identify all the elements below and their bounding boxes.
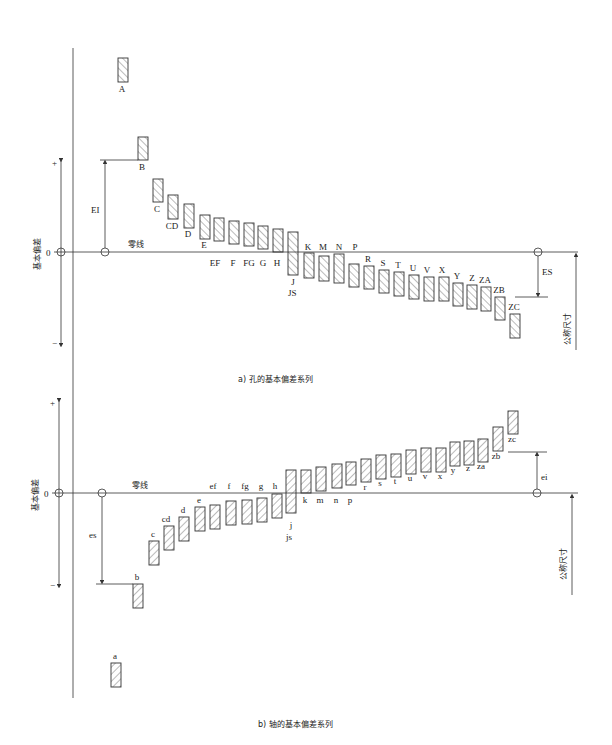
hole-deviation-label: EF — [210, 258, 221, 268]
hole-ei-label: EI — [91, 205, 100, 215]
shaft-tolerance-zone-b — [133, 584, 143, 608]
shaft-deviation-label: k — [303, 495, 308, 505]
shaft-tolerance-zone-r — [361, 459, 371, 482]
hole-deviation-label: Y — [454, 271, 461, 281]
hole-tolerance-zone-G — [258, 226, 268, 249]
hole-deviation-label: ZA — [479, 275, 491, 285]
hole-deviation-label: D — [185, 229, 192, 239]
shaft-deviation-label: z — [466, 463, 470, 473]
hole-deviation-label: X — [439, 265, 446, 275]
hole-zero-tick: 0 — [46, 248, 51, 258]
shaft-tolerance-zone-n — [332, 464, 342, 488]
shaft-tolerance-zone-zc — [508, 411, 518, 434]
shaft-axis-label: 基本偏差 — [30, 479, 40, 511]
hole-tolerance-zone-N — [334, 254, 344, 283]
shaft-deviation-label: g — [259, 481, 264, 491]
hole-minus-sign: − — [52, 338, 57, 348]
hole-deviation-label: U — [410, 263, 417, 273]
shaft-plus-sign: + — [50, 398, 55, 408]
shaft-ei-label: ei — [541, 472, 548, 482]
shaft-tolerance-zone-zb — [493, 427, 503, 451]
hole-deviation-label: E — [201, 240, 207, 250]
hole-tolerance-zone-B — [138, 137, 148, 160]
hole-deviation-label: Z — [469, 273, 475, 283]
shaft-deviation-label: p — [348, 495, 353, 505]
shaft-tolerance-zone-a — [111, 663, 121, 687]
hole-tolerance-zone-V — [424, 277, 434, 301]
shaft-tolerance-zone-fg — [242, 500, 252, 524]
hole-deviation-label: G — [260, 258, 267, 268]
shaft-deviation-label: zc — [508, 434, 516, 444]
shaft-deviation-label: n — [334, 495, 339, 505]
shaft-zero-line-label: 零线 — [132, 480, 148, 490]
shaft-deviation-label: m — [316, 495, 323, 505]
hole-tolerance-zone-A — [118, 58, 128, 82]
hole-deviation-label: K — [305, 242, 312, 252]
hole-diagram: + − 0 基本偏差 零线 EI ES 公称尺寸 ABCCDDEEFFFGGHJ… — [32, 58, 578, 384]
hole-bars: ABCCDDEEFFFGGHJKMNPRSTUVXYZZAZBZC — [118, 58, 520, 338]
hole-es-label: ES — [542, 267, 553, 277]
shaft-tolerance-zone-e — [195, 507, 205, 531]
shaft-deviation-label: x — [438, 471, 443, 481]
hole-tolerance-zone-U — [409, 275, 419, 299]
shaft-deviation-label: j — [289, 520, 293, 530]
shaft-tolerance-zone-d — [179, 517, 189, 541]
shaft-tolerance-zone-j — [286, 470, 296, 513]
hole-tolerance-zone-EF — [214, 218, 224, 241]
shaft-tolerance-zone-g — [257, 498, 267, 522]
hole-deviation-label: C — [154, 204, 160, 214]
shaft-tolerance-zone-p — [346, 462, 356, 485]
shaft-tolerance-zone-m — [316, 467, 326, 491]
shaft-deviation-label: ef — [210, 481, 217, 491]
hole-deviation-label: ZC — [508, 302, 520, 312]
shaft-tolerance-zone-y — [450, 442, 460, 466]
shaft-deviation-label: b — [135, 572, 140, 582]
hole-tolerance-zone-Y — [453, 283, 463, 306]
shaft-tolerance-zone-ef — [210, 505, 220, 529]
shaft-deviation-label: a — [113, 651, 117, 661]
hole-tolerance-zone-S — [379, 270, 389, 293]
shaft-tolerance-zone-z — [464, 441, 474, 465]
shaft-tolerance-zone-k — [301, 470, 311, 493]
hole-deviation-label: V — [424, 265, 431, 275]
shaft-diagram: + − 0 基本偏差 零线 es ei 公称尺寸 abccddeefffgghj… — [30, 398, 578, 729]
shaft-deviation-label: h — [273, 481, 278, 491]
hole-deviation-label: A — [119, 84, 126, 94]
hole-tolerance-zone-FG — [244, 223, 254, 246]
hole-deviation-label: J — [291, 277, 295, 287]
hole-deviation-label: CD — [166, 221, 179, 231]
hole-tolerance-zone-R — [364, 266, 374, 289]
fundamental-deviation-diagram: + − 0 基本偏差 零线 EI ES 公称尺寸 ABCCDDEEFFFGGHJ… — [0, 0, 612, 745]
shaft-deviation-label: u — [408, 473, 413, 483]
shaft-tolerance-zone-cd — [164, 526, 174, 550]
shaft-deviation-label: s — [378, 478, 382, 488]
shaft-tolerance-zone-f — [226, 501, 236, 525]
hole-tolerance-zone-C — [153, 179, 163, 202]
hole-tolerance-zone-M — [319, 256, 329, 281]
shaft-deviation-label: y — [451, 465, 456, 475]
shaft-tolerance-zone-za — [478, 439, 488, 462]
shaft-deviation-label: r — [364, 482, 367, 492]
shaft-tolerance-zone-c — [149, 541, 159, 565]
hole-deviation-label: R — [365, 254, 371, 264]
hole-tolerance-zone-T — [394, 272, 404, 296]
hole-deviation-label: B — [139, 162, 145, 172]
shaft-minus-sign: − — [50, 580, 55, 590]
shaft-tolerance-zone-u — [406, 450, 416, 474]
shaft-deviation-label: t — [394, 476, 397, 486]
shaft-deviation-label: c — [151, 529, 155, 539]
hole-deviation-label: M — [319, 242, 327, 252]
shaft-deviation-label: f — [228, 481, 231, 491]
hole-tolerance-zone-Z — [467, 285, 477, 309]
hole-tolerance-zone-ZC — [510, 314, 520, 338]
shaft-tolerance-zone-x — [436, 448, 446, 472]
hole-deviation-label: T — [395, 260, 401, 270]
hole-zero-line-label: 零线 — [128, 239, 144, 249]
shaft-deviation-label: fg — [241, 481, 249, 491]
hole-js-label: JS — [288, 288, 297, 298]
shaft-deviation-label: zb — [492, 451, 501, 461]
hole-deviation-label: S — [380, 258, 385, 268]
shaft-deviation-label: v — [423, 471, 428, 481]
hole-deviation-label: F — [230, 258, 235, 268]
hole-tolerance-zone-F — [229, 221, 239, 244]
